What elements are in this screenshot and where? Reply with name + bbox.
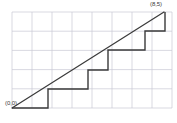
origin-label: (0,0)	[5, 100, 17, 107]
staircase-figure: (0,0) (8,5)	[0, 0, 177, 123]
diagonal-line	[12, 12, 164, 108]
figure-canvas	[0, 0, 177, 123]
grid-vertical-lines	[12, 12, 172, 108]
endpoint-label: (8,5)	[150, 1, 162, 8]
